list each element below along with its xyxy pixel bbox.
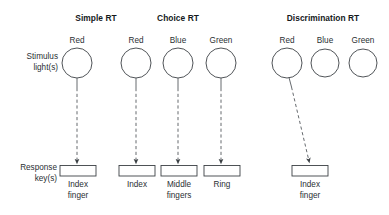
response-key-index (292, 166, 328, 177)
stimulus-light-label-blue: Blue (317, 36, 334, 45)
column-choice-rt: Red Index Blue Middle fingers Green Ring (119, 36, 240, 200)
stimulus-light-label-red: Red (128, 36, 143, 45)
column-simple-rt: Red Index finger (60, 36, 96, 200)
stimulus-light-red (272, 48, 302, 78)
stimulus-light-blue (311, 49, 339, 77)
response-key-label-line1: Middle (167, 180, 192, 189)
stimulus-stem-red (289, 78, 292, 88)
reaction-time-diagram: Stimulus light(s) Response key(s) Simple… (0, 0, 389, 215)
column-discrimination-rt: Red Blue Green Index finger (272, 36, 377, 200)
response-key-label-line2: fingers (167, 191, 192, 200)
column-title-simple-rt: Simple RT (75, 13, 117, 23)
stimulus-row-label-line2: light(s) (33, 63, 58, 72)
response-key-label-line1: Ring (214, 180, 231, 189)
stimulus-light-green (349, 49, 377, 77)
response-key-label-line1: Index (68, 180, 88, 189)
response-key-label-line1: Index (127, 180, 147, 189)
response-row-label-line1: Response (20, 163, 57, 172)
mapping-arrow-red-to-index (292, 87, 310, 161)
response-row-label-line2: key(s) (35, 174, 58, 183)
stimulus-light-blue (163, 48, 193, 78)
response-key-label-line2: finger (300, 191, 321, 200)
stimulus-row-label-line1: Stimulus (27, 52, 58, 61)
stimulus-light-label-green: Green (352, 36, 375, 45)
response-key-index (60, 166, 96, 177)
stimulus-light-red (121, 48, 151, 78)
response-key-middle (161, 166, 197, 177)
stimulus-light-green (206, 48, 236, 78)
stimulus-light-label-blue: Blue (170, 36, 187, 45)
response-key-ring (204, 166, 240, 177)
stimulus-light-label-green: Green (210, 36, 233, 45)
response-key-index (119, 166, 155, 177)
response-key-label-line2: finger (68, 191, 89, 200)
stimulus-light-red (62, 48, 92, 78)
column-title-choice-rt: Choice RT (157, 13, 200, 23)
response-key-label-line1: Index (300, 180, 320, 189)
stimulus-light-label-red: Red (69, 36, 84, 45)
column-title-discrimination-rt: Discrimination RT (287, 13, 360, 23)
diagram-canvas: Stimulus light(s) Response key(s) Simple… (0, 0, 389, 215)
stimulus-light-label-red: Red (279, 36, 294, 45)
